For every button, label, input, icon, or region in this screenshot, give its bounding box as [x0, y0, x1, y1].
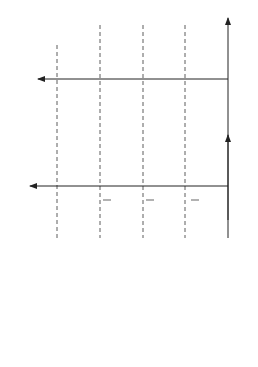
dashed-guides	[57, 25, 185, 238]
figure-caption	[0, 343, 258, 355]
transmission-line-diagram	[0, 0, 258, 367]
